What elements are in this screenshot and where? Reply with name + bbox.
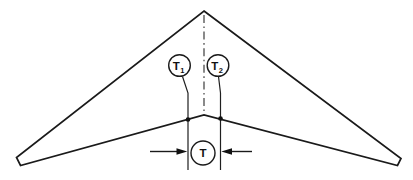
left-dimension-arrowhead bbox=[177, 148, 188, 155]
t2-label: T2 bbox=[211, 60, 223, 76]
wing-thickness-diagram: T1 T2 T bbox=[0, 0, 413, 180]
diagram-canvas: T1 T2 T bbox=[0, 0, 413, 180]
t1-label: T1 bbox=[173, 60, 185, 76]
t2-datum-dot bbox=[218, 116, 223, 121]
t1-extension-line bbox=[183, 77, 189, 171]
t2-extension-line bbox=[219, 77, 221, 171]
t1-datum-dot bbox=[186, 117, 191, 122]
right-dimension-arrowhead bbox=[221, 148, 232, 155]
t-label: T bbox=[199, 147, 206, 159]
